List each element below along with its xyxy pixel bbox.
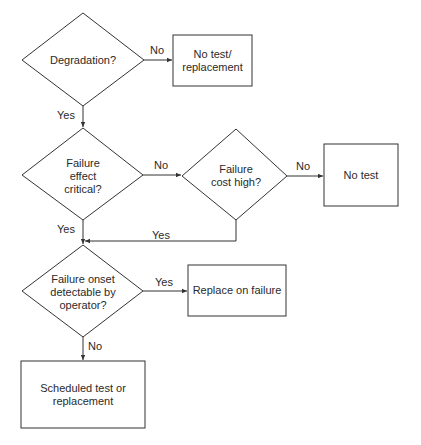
edge-label-d4-b3: Yes [155,276,173,289]
edge-label-d1-d2: Yes [57,109,75,122]
edge-label-d1-b1: No [150,44,164,57]
box-no-test-text: No test [324,144,398,206]
decision-failure-cost-high-text: Failure cost high? [196,158,276,194]
edge-label-d2-d3: No [154,159,168,172]
edge-label-d3-b2: No [296,160,310,173]
box-replace-on-failure-text: Replace on failure [188,265,286,316]
edge-label-d3-d4: Yes [152,229,170,242]
box-scheduled-test-text: Scheduled test or replacement [21,361,145,428]
box-no-test-replacement-text: No test/ replacement [173,35,252,86]
edge-label-d2-d4: Yes [57,223,75,236]
decision-failure-onset-detectable-text: Failure onset detectable by operator? [35,268,131,316]
edge-label-d4-b4: No [88,340,102,353]
decision-degradation-text: Degradation? [40,50,126,70]
decision-failure-effect-critical-text: Failure effect critical? [45,152,121,200]
